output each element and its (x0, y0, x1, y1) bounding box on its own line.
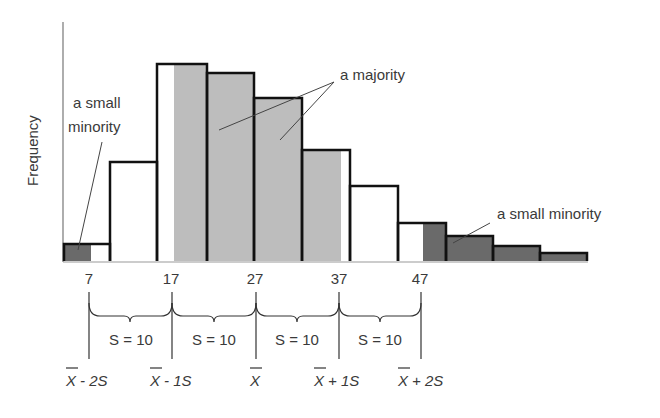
svg-text:37: 37 (331, 270, 348, 287)
svg-text:+ 2S: + 2S (412, 372, 443, 389)
svg-text:- 2S: - 2S (80, 372, 108, 389)
svg-text:S = 10: S = 10 (109, 331, 153, 348)
svg-text:X: X (313, 372, 325, 389)
sd-marker-lines (89, 292, 421, 359)
left-tail-pointer (78, 142, 102, 250)
svg-text:X: X (397, 372, 409, 389)
svg-text:17: 17 (163, 270, 180, 287)
svg-text:27: 27 (247, 270, 264, 287)
left-tail-note-line2: minority (68, 118, 121, 135)
svg-text:X: X (249, 372, 261, 389)
sd-braces (89, 303, 421, 322)
svg-text:S = 10: S = 10 (358, 331, 402, 348)
svg-text:S = 10: S = 10 (192, 331, 236, 348)
svg-text:- 1S: - 1S (164, 372, 192, 389)
majority-note: a majority (340, 66, 406, 83)
left-tail-note-line1: a small (73, 94, 121, 111)
svg-text:7: 7 (85, 270, 93, 287)
sd-marker-labels: X - 2S X - 1S X X + 1S X + 2S (65, 368, 443, 389)
y-axis-label: Frequency (24, 115, 41, 186)
histogram-chart: Frequency a small minority a majority a … (0, 0, 660, 418)
svg-text:+ 1S: + 1S (328, 372, 359, 389)
svg-text:X: X (65, 372, 77, 389)
right-tail-note: a small minority (497, 205, 602, 222)
svg-text:S = 10: S = 10 (275, 331, 319, 348)
svg-text:47: 47 (412, 270, 429, 287)
x-tick-labels: 7 17 27 37 47 (85, 270, 429, 287)
svg-text:X: X (149, 372, 161, 389)
